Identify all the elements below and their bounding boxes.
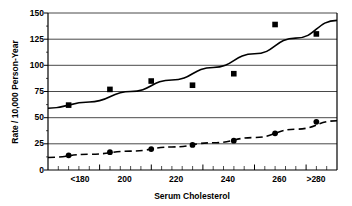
data-point-lower-1 xyxy=(107,149,113,155)
data-point-lower-0 xyxy=(66,152,72,158)
gridlines xyxy=(48,13,337,144)
x-tick-label-260: 260 xyxy=(272,174,286,184)
data-point-lower-6 xyxy=(313,119,319,125)
trend-line-lower xyxy=(48,121,337,158)
y-tick-label-0: 0 xyxy=(39,165,44,175)
x-tick-label-200: 200 xyxy=(118,174,132,184)
x-tick-label-220: 220 xyxy=(169,174,183,184)
y-tick-label-125: 125 xyxy=(30,34,44,44)
trend-line-upper xyxy=(48,20,337,108)
y-tick-label-75: 75 xyxy=(35,86,45,96)
data-point-upper-4 xyxy=(231,71,237,77)
data-point-upper-3 xyxy=(190,82,196,88)
chart-figure: Rate / 10,000 Person-Year 150 125 100 75… xyxy=(0,0,352,206)
data-point-upper-6 xyxy=(314,31,320,37)
y-tick-label-50: 50 xyxy=(35,112,45,122)
data-point-upper-2 xyxy=(148,78,154,84)
x-tick-label-240: 240 xyxy=(221,174,235,184)
y-tick-label-100: 100 xyxy=(30,60,44,70)
series-lower xyxy=(48,119,337,158)
data-point-upper-1 xyxy=(107,87,113,93)
data-point-lower-2 xyxy=(148,146,154,152)
y-axis-title: Rate / 10,000 Person-Year xyxy=(10,40,20,144)
series-upper xyxy=(48,20,337,108)
y-tick-label-150: 150 xyxy=(30,8,44,18)
x-axis-title: Serum Cholesterol xyxy=(154,191,230,201)
data-point-lower-4 xyxy=(231,138,237,144)
x-tick-label-180: <180 xyxy=(70,174,89,184)
data-point-upper-5 xyxy=(272,22,278,28)
data-point-lower-3 xyxy=(190,142,196,148)
x-tick-label-280: >280 xyxy=(306,174,325,184)
y-tick-label-25: 25 xyxy=(35,138,45,148)
serum-cholesterol-rate-chart: Rate / 10,000 Person-Year 150 125 100 75… xyxy=(0,0,352,206)
data-series-layer xyxy=(48,20,337,158)
data-point-lower-5 xyxy=(272,130,278,136)
data-point-upper-0 xyxy=(66,102,72,108)
